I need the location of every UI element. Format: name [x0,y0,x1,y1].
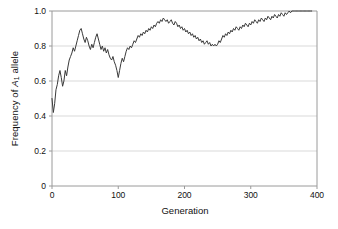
axis-frame [49,11,317,186]
x-tick-label: 200 [177,190,191,200]
x-tick-label: 100 [111,190,125,200]
x-tick-label: 0 [50,190,55,200]
x-axis-title: Generation [52,205,318,216]
series-line-a1-allele [52,11,312,113]
x-tick-label: 400 [310,190,324,200]
x-tick-label: 300 [244,190,258,200]
allele-frequency-chart: Frequency of A1 allele 00.20.40.60.81.0 … [0,0,338,229]
gridlines [52,11,317,151]
